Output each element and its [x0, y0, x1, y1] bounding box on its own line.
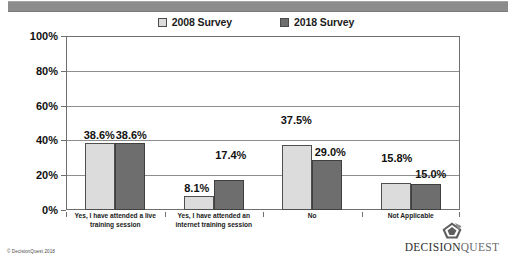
bars-layer: 38.6%38.6%8.1%17.4%37.5%29.0%15.8%15.0%	[66, 36, 460, 210]
x-axis-category-label: No	[266, 212, 359, 221]
bar-value-label: 17.4%	[215, 149, 246, 161]
brand-logo: DECISIONQUEST	[400, 222, 504, 266]
bar-2008[interactable]	[184, 196, 214, 210]
legend-item-2018: 2018 Survey	[280, 16, 354, 28]
bar-value-label: 38.6%	[116, 129, 147, 141]
top-banner-bar	[8, 1, 508, 12]
bar-group	[66, 36, 165, 210]
bar-group	[362, 36, 461, 210]
y-axis-tick-label: 0%	[42, 204, 58, 216]
y-axis-tick-label: 100%	[30, 30, 58, 42]
x-axis-tick-mark	[263, 212, 264, 217]
bar-2018[interactable]	[411, 184, 441, 210]
bar-2008[interactable]	[85, 143, 115, 210]
legend-item-2008: 2008 Survey	[158, 16, 232, 28]
bar-2008[interactable]	[381, 183, 411, 210]
x-axis-tick-mark	[459, 212, 460, 217]
legend-label-2008: 2008 Survey	[172, 16, 232, 28]
diamond-arrow-logo-icon	[442, 222, 462, 240]
brand-word-quest: QUEST	[461, 241, 500, 253]
bar-value-label: 38.6%	[84, 129, 115, 141]
bar-2018[interactable]	[214, 180, 244, 210]
y-axis-tick-mark	[61, 210, 66, 211]
y-axis-tick-label: 80%	[36, 65, 58, 77]
y-axis: 0%20%40%60%80%100%	[0, 36, 66, 210]
brand-wordmark: DECISIONQUEST	[405, 241, 500, 253]
x-axis-category-label: Yes, I have attended an internet trainin…	[168, 212, 261, 229]
bar-group	[263, 36, 362, 210]
bar-value-label: 37.5%	[281, 114, 312, 126]
y-axis-tick-label: 60%	[36, 100, 58, 112]
bar-value-label: 8.1%	[184, 182, 209, 194]
bar-value-label: 15.0%	[415, 168, 446, 180]
x-axis-category-label: Yes, I have attended a live training ses…	[69, 212, 162, 229]
x-axis-tick-mark	[362, 212, 363, 217]
bar-2008[interactable]	[282, 145, 312, 210]
copyright-notice: © DecisionQuest 2018	[7, 249, 55, 254]
legend-swatch-2008-icon	[158, 18, 167, 27]
chart-legend: 2008 Survey 2018 Survey	[0, 14, 512, 30]
y-axis-tick-label: 20%	[36, 169, 58, 181]
x-axis-tick-mark	[165, 212, 166, 217]
x-axis-tick-mark	[66, 212, 67, 217]
bar-2018[interactable]	[312, 160, 342, 210]
legend-swatch-2018-icon	[280, 18, 289, 27]
x-axis-category-label: Not Applicable	[365, 212, 458, 221]
y-axis-tick-label: 40%	[36, 134, 58, 146]
slide-canvas: 2008 Survey 2018 Survey 0%20%40%60%80%10…	[0, 0, 512, 270]
bar-value-label: 29.0%	[315, 146, 346, 158]
bar-value-label: 15.8%	[381, 152, 412, 164]
bar-2018[interactable]	[115, 143, 145, 210]
bar-group	[165, 36, 264, 210]
legend-label-2018: 2018 Survey	[294, 16, 354, 28]
brand-word-decision: DECISION	[405, 241, 461, 253]
